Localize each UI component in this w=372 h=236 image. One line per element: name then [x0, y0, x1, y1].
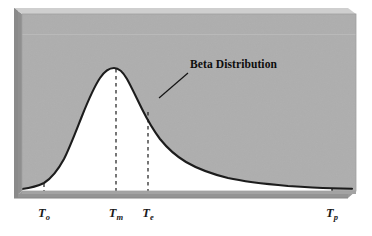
axis-tick-label-pessimistic-time: Tp [326, 207, 338, 220]
beta-distribution-annotation-label: Beta Distribution [190, 59, 277, 71]
axis-tick-label-expected-time: Te [142, 207, 153, 220]
axis-tick-letter: T [142, 206, 150, 220]
axis-bar-edge [22, 191, 356, 194]
box-left-edge [14, 8, 18, 198]
axis-tick-subscript: o [46, 212, 50, 222]
box-top-bevel [14, 8, 356, 14]
beta-distribution-chart [0, 0, 372, 236]
axis-tick-subscript: e [150, 212, 154, 222]
axis-tick-subscript: m [117, 212, 124, 222]
scan-band [22, 34, 356, 35]
beta-distribution-figure: To Tm Te Tp Beta Distribution [0, 0, 372, 236]
axis-tick-letter: T [38, 206, 46, 220]
axis-tick-letter: T [326, 206, 334, 220]
axis-tick-letter: T [109, 206, 117, 220]
axis-tick-label-optimistic-time: To [38, 207, 50, 220]
axis-tick-label-most-likely-time: Tm [109, 207, 123, 220]
axis-tick-subscript: p [334, 212, 338, 222]
